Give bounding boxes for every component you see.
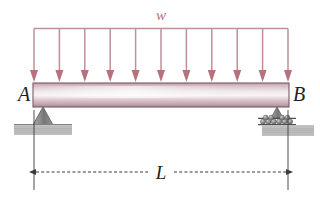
support-label-a: A: [16, 83, 31, 105]
beam-member: [33, 83, 289, 107]
load-label: w: [156, 7, 166, 23]
support-label-b: B: [293, 83, 305, 105]
ground-pad-left-hatch: [14, 124, 72, 135]
beam-diagram-figure: w: [0, 0, 320, 207]
beam-highlight: [34, 86, 288, 98]
span-label: L: [155, 162, 167, 183]
beam-diagram-canvas: w: [0, 0, 320, 207]
